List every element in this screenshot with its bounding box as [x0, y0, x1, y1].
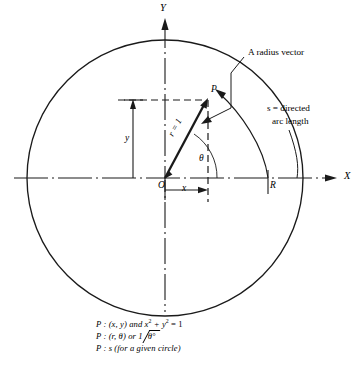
radius-vector-leader-arrowhead: [201, 116, 212, 124]
point-p-label: P: [211, 84, 217, 94]
theta-angle-label: θ: [199, 153, 204, 163]
theta-angle-arc: [194, 134, 217, 178]
y-axis-label: Y: [160, 2, 166, 13]
x-dimension-arrowhead: [198, 187, 208, 193]
caption-line-1: P : (x, y) and x2 + y2 = 1: [96, 316, 183, 330]
caption-line-1-text: P : (x, y) and x: [96, 319, 149, 329]
caption-line-3: P : s (for a given circle): [96, 343, 183, 355]
radius-vector-annotation: A radius vector: [248, 47, 304, 57]
caption-line-3-text: P : s (for a given circle): [96, 343, 181, 353]
radius-vector-line: [165, 103, 205, 178]
point-r-label: R: [270, 180, 276, 190]
origin-label: O: [158, 180, 165, 190]
angle-symbol-icon: θ°: [143, 330, 161, 343]
caption-line-2: P : (r, θ) or 1 θ°: [96, 330, 183, 343]
y-dimension-label: y: [125, 133, 129, 143]
x-dimension-label: x: [182, 183, 186, 193]
directed-arc-s: [219, 93, 268, 178]
caption-line-2-text: P : (r, θ) or 1: [96, 331, 145, 341]
y-axis-arrowhead: [161, 18, 168, 30]
x-axis-arrowhead: [325, 174, 337, 181]
x-axis-label: X: [344, 170, 350, 181]
caption-line-1-suffix: = 1: [169, 319, 183, 329]
caption-line-1-mid: + y: [152, 319, 166, 329]
arc-length-annotation-line2: arc length: [272, 116, 308, 126]
arc-length-annotation-line1: s = directed: [267, 103, 310, 113]
caption-block: P : (x, y) and x2 + y2 = 1 P : (r, θ) or…: [96, 316, 183, 355]
caption-line-2-angle: θ°: [148, 331, 156, 343]
